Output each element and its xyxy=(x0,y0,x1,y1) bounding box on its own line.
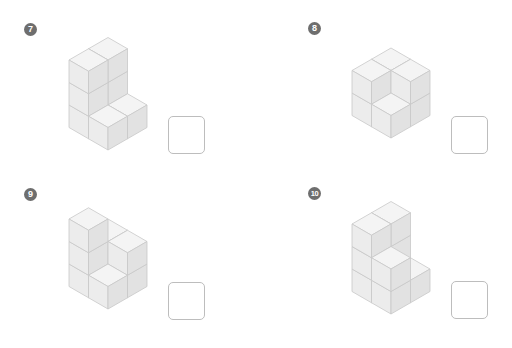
answer-box[interactable] xyxy=(168,116,205,154)
cube-figure-icon xyxy=(0,174,256,348)
problem-8: 8 xyxy=(256,0,512,174)
problem-9: 9 xyxy=(0,174,256,348)
answer-box[interactable] xyxy=(451,116,488,154)
answer-box[interactable] xyxy=(168,282,205,320)
problem-10: 10 xyxy=(256,174,512,348)
problem-7: 7 xyxy=(0,0,256,174)
cube-figure-icon xyxy=(256,174,512,348)
answer-box[interactable] xyxy=(451,281,488,319)
cube-figure-icon xyxy=(0,0,256,174)
